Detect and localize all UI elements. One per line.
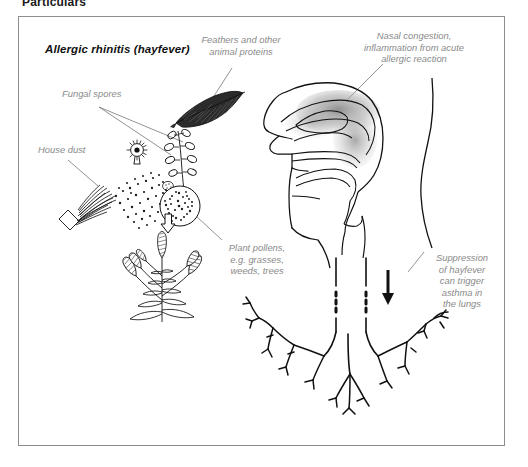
page-heading-text: Particulars bbox=[22, 0, 86, 9]
figure-title: Allergic rhinitis (hayfever) bbox=[45, 43, 190, 55]
callout-feathers-animal-proteins: Feathers and other animal proteins bbox=[193, 34, 289, 57]
callout-asthma-suppression: Suppression of hayfever can trigger asth… bbox=[426, 252, 498, 310]
callout-plant-pollens: Plant pollens, e.g. grasses, weeds, tree… bbox=[215, 242, 299, 277]
figure-frame: Allergic rhinitis (hayfever) bbox=[18, 16, 505, 446]
callout-house-dust: House dust bbox=[38, 144, 114, 156]
callout-nasal-congestion: Nasal congestion, inflammation from acut… bbox=[352, 30, 476, 65]
callout-fungal-spores: Fungal spores bbox=[62, 88, 152, 100]
